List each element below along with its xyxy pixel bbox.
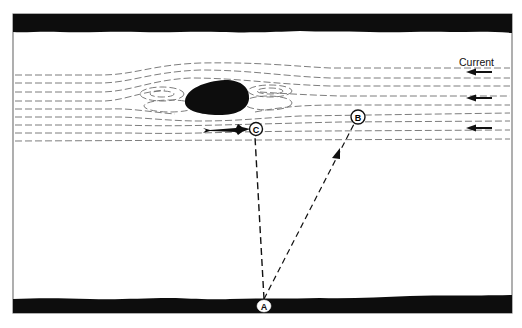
point-b-label: B [355, 113, 362, 123]
point-a: A [257, 300, 271, 312]
point-c: C [250, 123, 263, 136]
point-c-label: C [253, 125, 260, 135]
diagram-frame [13, 14, 512, 313]
point-b: B [351, 110, 365, 124]
current-label: Current [459, 56, 494, 68]
river-diagram: C B A Current [0, 0, 522, 328]
point-a-label: A [261, 302, 268, 312]
riverbank-top [13, 14, 512, 33]
